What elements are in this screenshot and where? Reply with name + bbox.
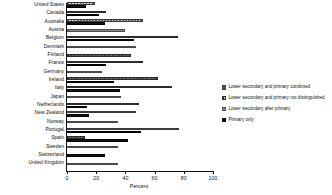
country-label: United States xyxy=(34,2,64,7)
legend-item[interactable]: Lower secondary and primary not distingu… xyxy=(222,94,325,103)
bar-segment xyxy=(67,39,134,42)
bar-chart: United StatesCanadaAustraliaAustriaBelgi… xyxy=(0,0,332,195)
bar-segment xyxy=(67,14,99,17)
country-label: Switzerland xyxy=(38,152,64,157)
country-label: Portugal xyxy=(45,127,64,132)
bar-segment xyxy=(67,89,120,92)
legend-item[interactable]: Primary only xyxy=(222,115,254,124)
country-label: Italy xyxy=(55,85,64,90)
country-label: Germany xyxy=(43,69,64,74)
x-axis-tick xyxy=(125,171,126,174)
legend-label: Lower secondary after primary xyxy=(228,107,290,112)
x-axis-line xyxy=(66,171,213,172)
bar-segment xyxy=(67,54,131,57)
bar-segment xyxy=(67,163,118,166)
x-axis-tick xyxy=(213,171,214,174)
legend-label: Primary only xyxy=(228,118,254,123)
bar-segment xyxy=(67,154,105,157)
legend-label: Lower secondary and primary combined xyxy=(228,85,310,90)
x-axis-tick-label: 100 xyxy=(209,175,218,181)
legend-swatch-icon xyxy=(222,118,226,122)
country-label: Sweden xyxy=(46,144,64,149)
country-label: Finland xyxy=(48,52,64,57)
country-label: New Zealand xyxy=(35,110,64,115)
bar-segment xyxy=(67,146,118,149)
country-label: Austria xyxy=(48,27,64,32)
bar-segment xyxy=(67,81,114,84)
bar-segment xyxy=(67,64,106,67)
x-axis-tick-label: 0 xyxy=(66,175,69,181)
bar-segment xyxy=(67,22,105,25)
country-label: France xyxy=(48,60,64,65)
country-label: Japan xyxy=(50,94,64,99)
bar-segment xyxy=(67,106,87,109)
x-axis-tick xyxy=(184,171,185,174)
bar-segment xyxy=(67,131,141,134)
bar-segment xyxy=(67,5,86,8)
x-axis-tick xyxy=(67,171,68,174)
legend-item[interactable]: Lower secondary and primary combined xyxy=(222,83,310,92)
country-label: Spain xyxy=(51,135,64,140)
legend-item[interactable]: Lower secondary after primary xyxy=(222,105,290,114)
bar-segment xyxy=(67,71,102,74)
bar-segment xyxy=(67,139,128,142)
x-axis-title: Percent xyxy=(130,183,149,189)
x-axis-tick xyxy=(96,171,97,174)
x-axis-tick-label: 60 xyxy=(152,175,158,181)
country-label: Canada xyxy=(46,10,64,15)
country-label: Netherlands xyxy=(37,102,64,107)
country-label: Denmark xyxy=(44,44,64,49)
bar-segment xyxy=(67,121,118,124)
x-axis-tick-label: 20 xyxy=(93,175,99,181)
legend-label: Lower secondary and primary not distingu… xyxy=(228,96,324,101)
x-axis-tick xyxy=(155,171,156,174)
legend-swatch-icon xyxy=(222,85,226,89)
x-axis-tick-label: 40 xyxy=(122,175,128,181)
legend-swatch-icon xyxy=(222,107,226,111)
bar-segment xyxy=(67,96,121,99)
bar-segment xyxy=(67,29,125,32)
legend-swatch-icon xyxy=(222,96,226,100)
country-label: Ireland xyxy=(49,77,64,82)
bar-segment xyxy=(67,46,136,49)
country-label: Norway xyxy=(47,119,64,124)
country-label: Australia xyxy=(45,19,64,24)
x-axis-tick-label: 80 xyxy=(181,175,187,181)
country-label: Belgium xyxy=(46,35,64,40)
country-label: United Kingdom xyxy=(28,160,64,165)
bar-segment xyxy=(67,114,89,117)
